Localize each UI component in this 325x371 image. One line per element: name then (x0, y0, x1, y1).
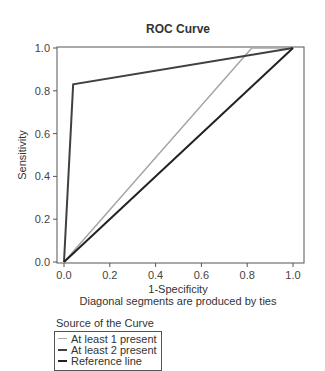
series-lines (64, 48, 293, 262)
x-axis: 0.00.20.40.60.81.0 (56, 263, 300, 281)
y-tick-label: 0.4 (35, 170, 50, 182)
x-tick-label: 1.0 (285, 269, 300, 281)
y-tick-label: 0.8 (35, 85, 50, 97)
x-tick-label: 0.0 (56, 269, 71, 281)
y-tick-label: 1.0 (35, 42, 50, 54)
legend-swatch-icon (58, 338, 67, 339)
chart-title: ROC Curve (146, 22, 210, 36)
legend-swatch-icon (58, 349, 67, 351)
y-axis: 0.00.20.40.60.81.0 (35, 42, 57, 268)
y-tick-label: 0.0 (35, 256, 50, 268)
plot-frame (57, 47, 304, 263)
legend-item-reference: Reference line (55, 355, 161, 366)
legend-swatch-icon (58, 360, 67, 362)
legend: At least 1 present At least 2 present Re… (54, 331, 162, 371)
x-tick-label: 0.2 (102, 269, 117, 281)
legend-label: Reference line (71, 355, 142, 367)
y-tick-label: 0.6 (35, 128, 50, 140)
legend-item-at-least-2: At least 2 present (55, 344, 161, 355)
y-tick-label: 0.2 (35, 213, 50, 225)
x-tick-label: 0.6 (194, 269, 209, 281)
y-axis-label: Sensitivity (16, 130, 28, 180)
x-axis-label: 1-Specificity (148, 283, 208, 295)
legend-title: Source of the Curve (56, 317, 154, 329)
x-tick-label: 0.4 (148, 269, 163, 281)
legend-item-at-least-1: At least 1 present (55, 333, 161, 344)
x-tick-label: 0.8 (240, 269, 255, 281)
footnote: Diagonal segments are produced by ties (80, 295, 277, 307)
